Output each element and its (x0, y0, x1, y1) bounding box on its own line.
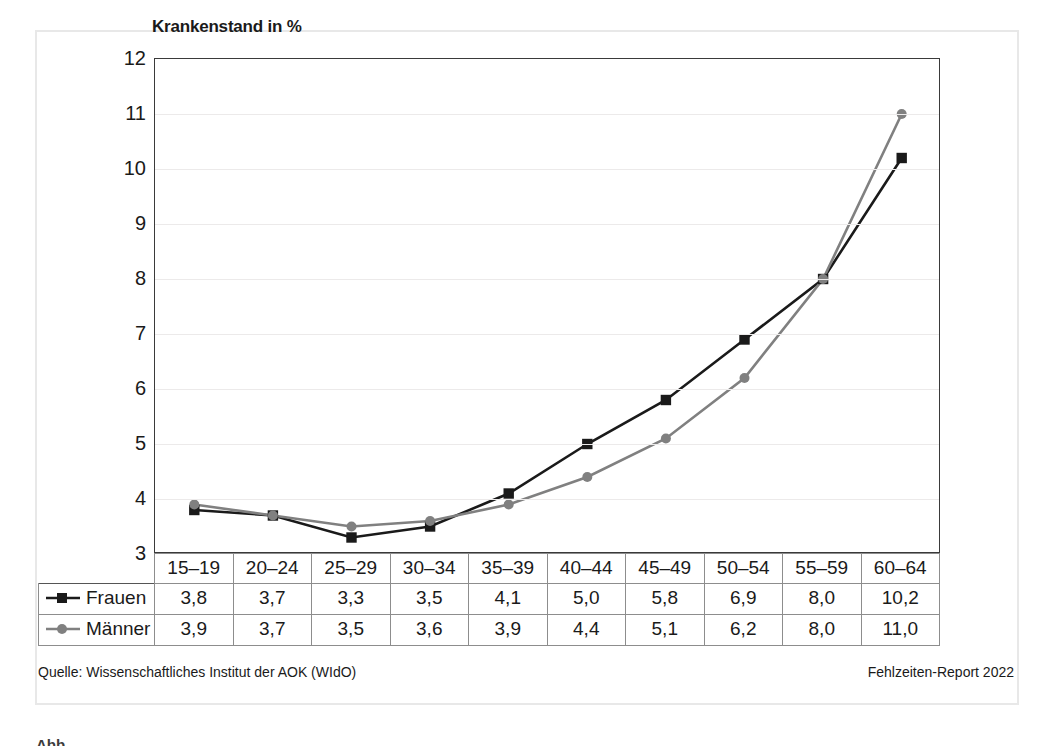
gridline (155, 389, 939, 390)
table-column-header: 45–49 (626, 554, 705, 584)
series-line-frauen (194, 158, 901, 538)
data-point-marker (189, 500, 199, 510)
y-axis-tick-label: 6 (135, 378, 146, 398)
caption-stub: Abb. (36, 736, 156, 746)
table-cell-value: 11,0 (861, 614, 940, 645)
legend-label: Frauen (86, 587, 146, 608)
gridline (155, 499, 939, 500)
table-column-header: 25–29 (312, 554, 391, 584)
table-cell-value: 8,0 (783, 584, 862, 615)
table-column-header: 50–54 (704, 554, 783, 584)
y-axis-tick-label: 9 (135, 213, 146, 233)
data-point-marker (504, 488, 514, 498)
series-line-männer (194, 114, 901, 527)
table-cell-value: 5,0 (547, 584, 626, 615)
table-cell-value: 3,5 (312, 614, 391, 645)
table-cell-value: 3,9 (155, 614, 234, 645)
table-cell-value: 4,1 (469, 584, 548, 615)
data-point-marker (739, 334, 749, 344)
data-point-marker (346, 532, 356, 542)
source-note: Quelle: Wissenschaftliches Institut der … (38, 664, 356, 680)
chart-title: Krankenstand in % (152, 17, 302, 37)
data-point-marker (504, 500, 514, 510)
table-cell-value: 3,6 (390, 614, 469, 645)
table-row: Männer3,93,73,53,63,94,45,16,28,011,0 (39, 614, 940, 645)
table-column-header: 35–39 (469, 554, 548, 584)
data-point-marker (897, 153, 907, 163)
data-point-marker (740, 373, 750, 383)
table-cell-value: 8,0 (783, 614, 862, 645)
series-svg (155, 59, 941, 554)
legend-cell-männer: Männer (39, 614, 155, 645)
data-point-marker (661, 434, 671, 444)
table-cell-value: 5,8 (626, 584, 705, 615)
data-point-marker (347, 522, 357, 532)
y-axis-tick-label: 8 (135, 268, 146, 288)
gridline (155, 224, 939, 225)
table-cell-value: 3,9 (469, 614, 548, 645)
data-point-marker (661, 395, 671, 405)
plot-area (154, 58, 940, 553)
report-note: Fehlzeiten-Report 2022 (868, 664, 1014, 680)
legend-circle-marker-icon (46, 619, 80, 641)
table-row: Frauen3,83,73,33,54,15,05,86,98,010,2 (39, 584, 940, 615)
table-column-header: 40–44 (547, 554, 626, 584)
table-column-header: 15–19 (155, 554, 234, 584)
table-cell-value: 5,1 (626, 614, 705, 645)
table-header-row: 15–1920–2425–2930–3435–3940–4445–4950–54… (39, 554, 940, 584)
y-axis-tick-label: 5 (135, 433, 146, 453)
data-table: 15–1920–2425–2930–3435–3940–4445–4950–54… (38, 553, 940, 646)
table-cell-value: 6,9 (704, 584, 783, 615)
y-axis-tick-label: 10 (124, 158, 146, 178)
y-axis-tick-labels: 3456789101112 (94, 58, 146, 553)
table-cell-value: 3,8 (155, 584, 234, 615)
gridline (155, 279, 939, 280)
table-cell-value: 3,3 (312, 584, 391, 615)
table-column-header: 20–24 (233, 554, 312, 584)
table-column-header: 60–64 (861, 554, 940, 584)
table-column-header: 30–34 (390, 554, 469, 584)
legend-square-marker-icon (46, 588, 80, 610)
y-axis-tick-label: 12 (124, 48, 146, 68)
table-cell-value: 4,4 (547, 614, 626, 645)
y-axis-tick-label: 4 (135, 488, 146, 508)
data-point-marker (425, 516, 435, 526)
table-head: 15–1920–2425–2930–3435–3940–4445–4950–54… (39, 554, 940, 584)
table-column-header: 55–59 (783, 554, 862, 584)
legend-cell-frauen: Frauen (39, 584, 155, 615)
table-cell-value: 10,2 (861, 584, 940, 615)
legend-label: Männer (86, 618, 150, 639)
table-cell-value: 3,5 (390, 584, 469, 615)
gridline (155, 114, 939, 115)
y-axis-tick-label: 11 (125, 103, 146, 123)
data-point-marker (582, 472, 592, 482)
data-point-marker (268, 511, 278, 521)
table-cell-value: 6,2 (704, 614, 783, 645)
table-body: Frauen3,83,73,33,54,15,05,86,98,010,2Män… (39, 584, 940, 646)
table-corner-cell (39, 554, 155, 584)
gridline (155, 169, 939, 170)
gridline (155, 334, 939, 335)
table-cell-value: 3,7 (233, 584, 312, 615)
table-cell-value: 3,7 (233, 614, 312, 645)
gridline (155, 444, 939, 445)
y-axis-tick-label: 7 (135, 323, 146, 343)
